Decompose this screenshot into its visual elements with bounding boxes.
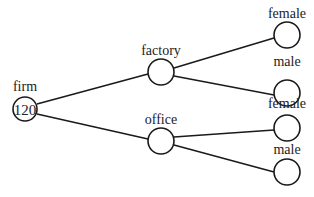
- node-firm: firm 120: [13, 79, 37, 121]
- leaf-label: female: [268, 96, 306, 111]
- leaf-circle: [274, 115, 300, 141]
- leaf-factory-female: female: [268, 6, 306, 48]
- leaf-label: female: [268, 6, 306, 21]
- leaf-label: male: [273, 142, 300, 157]
- tree-diagram: firm 120 factory office female male fema…: [0, 0, 314, 197]
- edge-office-female: [174, 130, 274, 137]
- edge-office-male: [174, 145, 274, 172]
- node-circle-factory: [148, 59, 174, 85]
- leaf-circle: [274, 159, 300, 185]
- leaf-office-female: female: [268, 96, 306, 141]
- node-label-factory: factory: [141, 43, 181, 58]
- node-label-office: office: [145, 112, 177, 127]
- leaf-circle: [274, 22, 300, 48]
- edge-firm-factory: [37, 74, 148, 104]
- leaf-label: male: [273, 54, 300, 69]
- edge-firm-office: [37, 114, 148, 139]
- node-value-firm: 120: [14, 102, 37, 118]
- leaf-office-male: male: [273, 142, 300, 185]
- node-label-firm: firm: [13, 79, 37, 94]
- node-factory: factory: [141, 43, 181, 85]
- edge-factory-female: [174, 38, 274, 68]
- edge-factory-male: [174, 76, 274, 95]
- node-circle-office: [148, 128, 174, 154]
- node-office: office: [145, 112, 177, 154]
